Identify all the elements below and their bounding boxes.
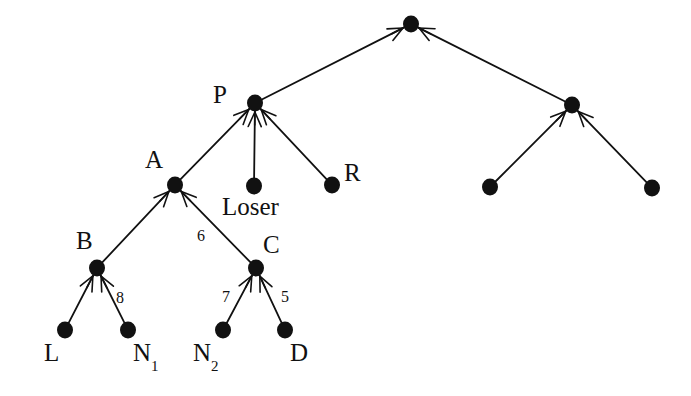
node-label-subscript: 2 <box>211 358 219 374</box>
node-label-loser: Loser <box>222 194 279 219</box>
edge-Loser-to-P <box>248 110 261 180</box>
node-label-n1: N1 <box>133 340 159 370</box>
tournament-tree-diagram: PALoserRBCLN1N2D 6875 <box>0 0 691 396</box>
tree-node-rm[interactable] <box>564 97 580 114</box>
tree-graphics <box>0 0 691 396</box>
node-label-l: L <box>44 340 59 365</box>
arrowhead-barb <box>387 28 403 29</box>
tree-node-a[interactable] <box>167 177 183 194</box>
tree-node-n2[interactable] <box>215 322 231 339</box>
edge-B-to-A <box>101 190 170 264</box>
tree-node-rl2[interactable] <box>644 180 660 197</box>
tree-node-b[interactable] <box>89 260 105 277</box>
tree-node-p[interactable] <box>247 95 263 112</box>
edge-weight-5: 5 <box>281 289 289 305</box>
edge-RL2-to-RM <box>577 110 648 184</box>
node-label-c: C <box>263 232 280 257</box>
tree-node-d[interactable] <box>277 322 293 339</box>
arrowhead-barb <box>101 276 102 292</box>
node-label-p: P <box>213 82 227 107</box>
tree-node-root[interactable] <box>403 16 419 33</box>
edge-P-to-root <box>260 27 404 100</box>
node-label-b: B <box>76 228 93 253</box>
arrowhead-barb <box>255 112 261 127</box>
edge-weight-8: 8 <box>116 290 124 306</box>
tree-node-l[interactable] <box>57 322 73 339</box>
edge-RM-to-root <box>417 27 566 102</box>
edge-A-to-P <box>179 108 250 181</box>
edge-weight-6: 6 <box>197 228 205 244</box>
edge-RL1-to-RM <box>494 110 567 183</box>
node-label-subscript: 1 <box>151 358 159 374</box>
tree-node-r[interactable] <box>324 177 340 194</box>
node-label-r: R <box>344 160 361 185</box>
edge-D-to-C <box>259 274 282 324</box>
edge-weight-7: 7 <box>222 289 230 305</box>
edge-R-to-P <box>260 108 328 181</box>
node-label-a: A <box>145 147 163 172</box>
tree-node-loser[interactable] <box>246 178 262 195</box>
tree-node-rl1[interactable] <box>482 179 498 196</box>
tree-node-n1[interactable] <box>120 322 136 339</box>
node-label-d: D <box>290 340 308 365</box>
edge-L-to-B <box>68 274 94 324</box>
tree-node-c[interactable] <box>248 260 264 277</box>
node-label-n2: N2 <box>193 340 219 370</box>
